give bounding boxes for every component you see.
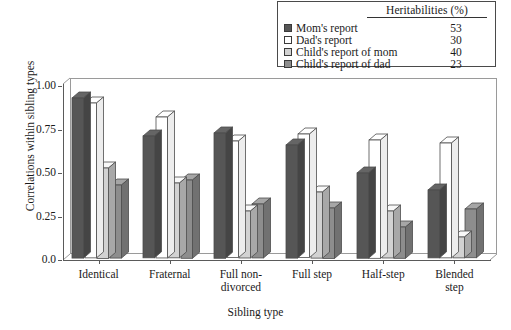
legend-row: Child's report of mom40 (284, 46, 491, 58)
y-axis-tick-mark (58, 173, 62, 174)
bar-shape (357, 167, 378, 260)
bar (214, 135, 226, 260)
legend-heritability-value: 23 (421, 58, 491, 70)
x-axis-labels: IdenticalFraternalFull non-divorcedFull … (63, 264, 491, 304)
legend-heritability-value: 40 (421, 46, 491, 58)
y-axis-tick-mark (58, 260, 62, 261)
legend-label: Dad's report (296, 34, 421, 46)
y-axis-line (63, 84, 64, 261)
legend-row: Dad's report30 (284, 34, 491, 46)
legend-swatch-moms-report (284, 24, 292, 32)
legend-label: Child's report of dad (296, 58, 421, 70)
bar-shape (428, 184, 449, 260)
legend-header: Heritabilities (%) (367, 4, 487, 18)
legend-swatch-childs-report-of-mom (284, 48, 292, 56)
legend-heritability-value: 30 (421, 34, 491, 46)
x-axis-tick-label: Blendedstep (409, 268, 499, 293)
x-axis-line (63, 260, 491, 261)
bar (428, 192, 440, 260)
legend-swatch-dads-report (284, 36, 292, 44)
bar-shape (286, 139, 307, 260)
legend-swatch-childs-report-of-dad (284, 60, 292, 68)
bar (286, 147, 298, 260)
y-axis-tick-mark (58, 217, 62, 218)
legend-row: Mom's report53 (284, 22, 491, 34)
legend-row: Child's report of dad23 (284, 59, 491, 71)
y-axis-tick-mark (58, 130, 62, 131)
bar-shape (72, 92, 93, 260)
chart-legend: Heritabilities (%) Mom's report53Dad's r… (277, 1, 496, 67)
legend-label: Mom's report (296, 22, 421, 34)
bars-layer (63, 84, 490, 260)
legend-label: Child's report of mom (296, 46, 421, 58)
y-axis-title: Correlations within sibling types (24, 36, 36, 236)
x-axis-title: Sibling type (0, 306, 511, 318)
bar (357, 175, 369, 260)
bar-shape (143, 130, 164, 260)
bar (72, 100, 84, 260)
y-axis-tick-mark (58, 86, 62, 87)
legend-row-list: Mom's report53Dad's report30Child's repo… (284, 22, 491, 71)
bar-shape (214, 127, 235, 260)
chart-root: Heritabilities (%) Mom's report53Dad's r… (0, 0, 511, 330)
bar (143, 138, 155, 260)
legend-heritability-value: 53 (421, 22, 491, 34)
y-axis-tick-label: 0.0 (0, 253, 56, 265)
